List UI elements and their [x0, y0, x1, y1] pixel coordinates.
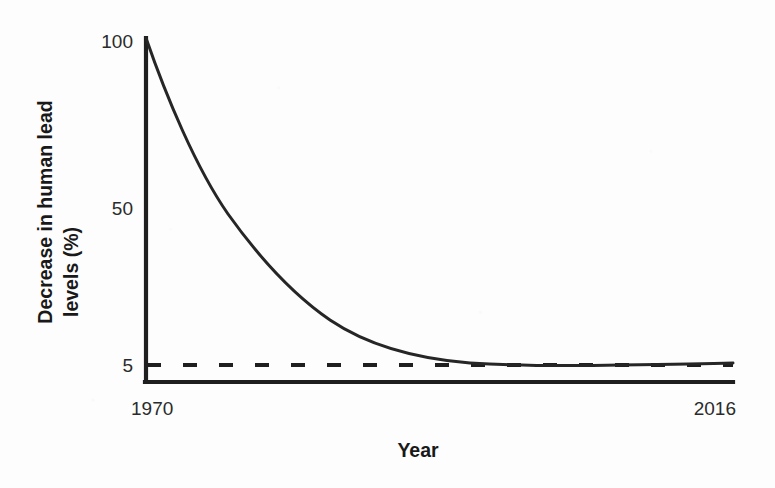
y-tick-label-5: 5 — [122, 355, 133, 376]
x-axis-title: Year — [397, 439, 439, 461]
y-axis-title-line1: Decrease in human lead — [34, 100, 56, 323]
x-tick-label-1970: 1970 — [131, 398, 173, 419]
y-tick-label-50: 50 — [112, 198, 133, 219]
chart-plot-area: 100 50 5 1970 2016 Decrease in human lea… — [0, 0, 775, 488]
y-axis-title-line2: levels (%) — [60, 227, 82, 317]
lead-levels-curve — [146, 38, 733, 366]
chart-figure: 100 50 5 1970 2016 Decrease in human lea… — [0, 0, 775, 488]
x-tick-label-2016: 2016 — [694, 398, 736, 419]
y-tick-label-100: 100 — [101, 31, 133, 52]
y-axis-title: Decrease in human lead levels (%) — [34, 100, 82, 323]
